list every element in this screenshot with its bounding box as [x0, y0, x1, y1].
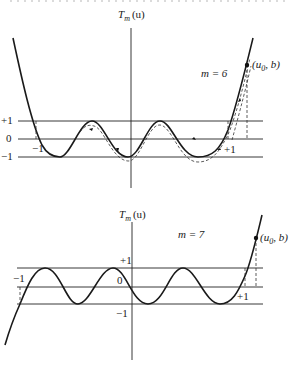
bottom-curve	[5, 215, 262, 345]
top-point-u0-b	[245, 63, 249, 67]
arrow-icon	[89, 128, 93, 131]
bottom-point-u0-b	[254, 236, 258, 240]
chebyshev-diagram: Tm(u) +1 0 −1 −1 +1 m = 6 (u0, b) Tm(u)	[0, 0, 301, 367]
top-tick-minus1: −1	[1, 150, 13, 162]
top-point-label: (u0, b)	[252, 58, 280, 73]
bottom-tick-minus1: −1	[116, 307, 128, 319]
bottom-tick-zero: 0	[117, 274, 123, 286]
bottom-point-label: (u0, b)	[260, 231, 288, 246]
top-m-label: m = 6	[201, 67, 228, 79]
top-dashed-outer	[232, 66, 251, 140]
bottom-axis-label: Tm(u)	[119, 208, 146, 223]
arrow-icon	[192, 137, 196, 140]
bottom-m-label: m = 7	[178, 228, 205, 240]
top-axis-label: Tm(u)	[118, 8, 145, 23]
bottom-tick-plus1: +1	[120, 254, 132, 266]
bottom-u-minus1: −1	[13, 272, 25, 284]
top-tick-plus1: +1	[1, 114, 13, 126]
top-plot: Tm(u) +1 0 −1 −1 +1 m = 6 (u0, b)	[1, 8, 280, 188]
top-tick-zero: 0	[6, 132, 12, 144]
bottom-plot: Tm(u) +1 0 −1 −1 +1 m = 7 (u0, b)	[5, 208, 288, 360]
bottom-u-plus1: +1	[237, 290, 249, 302]
top-u-plus1: +1	[224, 143, 236, 155]
